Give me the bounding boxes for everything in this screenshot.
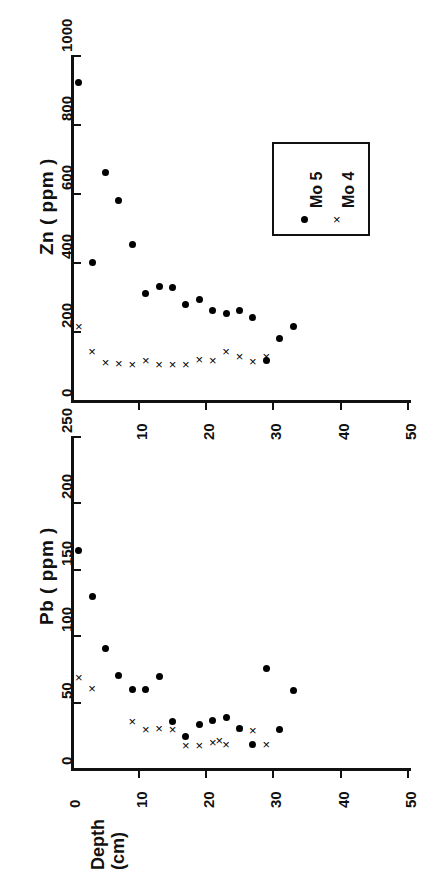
data-point-cross: ×: [140, 355, 151, 366]
zn-plot-area: ×××××××××××××××: [0, 0, 440, 415]
data-point-dot: [276, 726, 283, 733]
data-point-dot: [290, 323, 297, 330]
data-point-dot: [209, 307, 216, 314]
data-point-dot: [89, 259, 96, 266]
data-point-cross: ×: [87, 346, 98, 357]
figure-canvas: 1000 800 600 400 200 0 Zn ( ppm ) 10 20 …: [0, 0, 440, 881]
data-point-dot: [196, 721, 203, 728]
data-point-cross: ×: [113, 358, 124, 369]
data-point-cross: ×: [180, 359, 191, 370]
legend-marker-mo5: [301, 216, 308, 223]
data-point-dot: [102, 645, 109, 652]
legend-box: Mo 5 Mo 4 ×: [272, 142, 370, 236]
data-point-cross: ×: [73, 672, 84, 683]
data-point-dot: [129, 241, 136, 248]
pb-panel: 250 200 150 100 50 0 Pb ( ppm ) 0 10 20 …: [0, 415, 440, 881]
zn-panel: 1000 800 600 400 200 0 Zn ( ppm ) 10 20 …: [0, 0, 440, 415]
data-point-dot: [209, 717, 216, 724]
data-point-cross: ×: [261, 351, 272, 362]
data-point-cross: ×: [247, 725, 258, 736]
data-point-cross: ×: [194, 740, 205, 751]
data-point-cross: ×: [127, 359, 138, 370]
data-point-cross: ×: [154, 723, 165, 734]
data-point-dot: [249, 741, 256, 748]
data-point-cross: ×: [100, 357, 111, 368]
data-point-dot: [182, 301, 189, 308]
pb-plot-area: ××××××××××××××: [0, 415, 440, 881]
data-point-dot: [75, 79, 82, 86]
data-point-dot: [156, 673, 163, 680]
data-point-dot: [290, 687, 297, 694]
data-point-dot: [102, 169, 109, 176]
data-point-cross: ×: [234, 723, 245, 734]
legend-label-mo4: Mo 4: [340, 172, 358, 208]
data-point-dot: [156, 283, 163, 290]
data-point-dot: [75, 547, 82, 554]
data-point-cross: ×: [194, 354, 205, 365]
data-point-dot: [276, 335, 283, 342]
data-point-cross: ×: [140, 724, 151, 735]
legend-label-mo5: Mo 5: [308, 172, 326, 208]
data-point-dot: [89, 593, 96, 600]
data-point-cross: ×: [154, 359, 165, 370]
data-point-dot: [249, 314, 256, 321]
data-point-dot: [142, 686, 149, 693]
data-point-dot: [115, 197, 122, 204]
data-point-cross: ×: [207, 355, 218, 366]
data-point-dot: [263, 665, 270, 672]
data-point-dot: [115, 672, 122, 679]
data-point-cross: ×: [247, 356, 258, 367]
data-point-cross: ×: [167, 359, 178, 370]
data-point-cross: ×: [73, 321, 84, 332]
data-point-cross: ×: [261, 739, 272, 750]
data-point-cross: ×: [221, 346, 232, 357]
data-point-dot: [223, 310, 230, 317]
data-point-cross: ×: [234, 351, 245, 362]
data-point-cross: ×: [127, 716, 138, 727]
data-point-dot: [223, 714, 230, 721]
data-point-cross: ×: [221, 739, 232, 750]
data-point-cross: ×: [87, 683, 98, 694]
data-point-dot: [196, 296, 203, 303]
data-point-cross: ×: [180, 740, 191, 751]
legend-marker-mo4: ×: [333, 213, 341, 226]
data-point-dot: [142, 290, 149, 297]
data-point-dot: [169, 284, 176, 291]
data-point-dot: [129, 686, 136, 693]
data-point-dot: [236, 307, 243, 314]
data-point-cross: ×: [167, 724, 178, 735]
